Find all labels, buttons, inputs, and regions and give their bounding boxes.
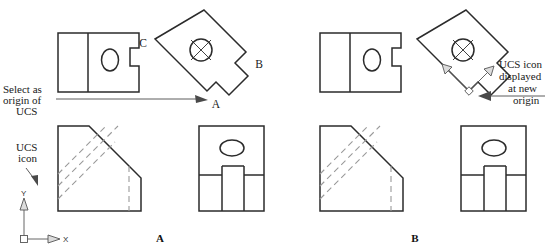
ucs-axis-x-label: X (63, 235, 69, 244)
ucs-new-origin-line4: origin (513, 94, 540, 106)
ucs-icon-label-line2: icon (18, 152, 37, 164)
ucs-new-origin-line2: displayed (499, 70, 542, 82)
point-label-b: B (255, 58, 263, 70)
ucs-new-origin-line3: at new (508, 82, 537, 94)
ucs-new-origin-line1: UCS icon (499, 58, 543, 70)
point-label-a: A (212, 98, 221, 110)
ucs-origin-square (21, 236, 28, 243)
technical-drawing-figure: C B A Select as origin of UCS UCS icon (0, 0, 555, 249)
caption-left: A (156, 232, 164, 244)
select-origin-line3: UCS (16, 105, 37, 117)
ucs-axis-y-label: Y (21, 189, 27, 198)
point-label-c: C (139, 37, 147, 49)
figure-root: C B A Select as origin of UCS UCS icon (0, 0, 555, 249)
caption-right: B (411, 232, 419, 244)
